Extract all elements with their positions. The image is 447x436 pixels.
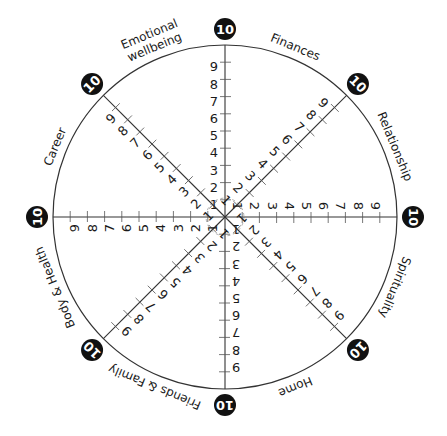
category-label-text: Body & Health [32, 245, 78, 330]
category-label-home: Home [276, 374, 314, 400]
tick-label: 2 [210, 180, 218, 195]
tick-label: 5 [136, 224, 151, 232]
tick-label: 8 [303, 107, 319, 123]
badge-label: 10 [346, 338, 369, 361]
tick-label: 5 [232, 291, 240, 306]
badge-10: 10 [342, 334, 373, 365]
badge-label: 10 [346, 72, 369, 95]
tick-label: 7 [143, 299, 159, 315]
tick-label: 7 [102, 224, 117, 232]
category-label-career: Career [41, 125, 69, 167]
category-label-relationship: Relationship [374, 110, 415, 183]
tick-label: 4 [232, 274, 240, 289]
category-label-text: Relationship [374, 110, 415, 183]
category-label-text: Finances [269, 31, 323, 64]
tick-label: 5 [151, 159, 167, 175]
tick-label: 9 [331, 307, 347, 323]
tick-label: 7 [127, 135, 143, 151]
tick-label: 7 [210, 94, 218, 109]
tick-label: 2 [232, 239, 240, 254]
badge-10: 10 [77, 69, 108, 100]
tick-label: 7 [307, 283, 323, 299]
tick-label: 3 [191, 250, 207, 266]
category-label-text: Career [41, 125, 69, 167]
tick-label: 1 [210, 197, 218, 212]
badge-10: 10 [214, 394, 236, 416]
tick-label: 3 [171, 224, 186, 232]
category-label-finances: Finances [269, 31, 323, 64]
tick-label: 8 [131, 311, 147, 327]
tick-label: 1 [230, 202, 245, 210]
badge-label: 10 [80, 338, 103, 361]
tick-label: 6 [316, 202, 331, 210]
tick-label: 6 [279, 131, 295, 147]
tick-label: 6 [155, 286, 171, 302]
tick-label: 5 [167, 274, 183, 290]
axes-group: 1234567891234567891234567891234567891234… [53, 45, 397, 389]
tick-label: 5 [266, 143, 282, 159]
tick-label: 3 [210, 163, 218, 178]
tick-label: 5 [282, 258, 298, 274]
tick-label: 9 [368, 202, 383, 210]
tick-label: 8 [210, 77, 218, 92]
tick-label: 7 [232, 325, 240, 340]
tick-label: 9 [118, 323, 134, 339]
tick-label: 6 [294, 271, 310, 287]
badge-label: 10 [216, 22, 234, 37]
tick-label: 7 [333, 202, 348, 210]
tick-label: 6 [232, 308, 240, 323]
tick-label: 2 [246, 222, 262, 238]
tick-label: 9 [315, 95, 331, 111]
tick-label: 9 [103, 110, 119, 126]
badge-label: 10 [80, 72, 103, 95]
tick-label: 2 [188, 224, 203, 232]
tick-label: 9 [232, 360, 240, 375]
badge-label: 10 [30, 208, 45, 226]
badge-10: 10 [402, 206, 424, 228]
category-label-text: Home [276, 374, 314, 400]
category-label-friends-family: Friends & Family [106, 362, 203, 413]
tick-label: 4 [163, 171, 179, 187]
tick-label: 8 [85, 224, 100, 232]
tick-label: 9 [210, 59, 218, 74]
tick-label: 1 [232, 222, 240, 237]
tick-label: 4 [153, 224, 168, 232]
wheel-of-life-diagram: 1234567891234567891234567891234567891234… [0, 0, 447, 436]
badge-10: 10 [214, 18, 236, 40]
badge-label: 10 [216, 398, 234, 413]
tick-label: 3 [242, 168, 258, 184]
tick-label: 7 [291, 119, 307, 135]
tick-label: 4 [254, 155, 270, 171]
tick-label: 8 [115, 123, 131, 139]
badge-10: 10 [77, 334, 108, 365]
tick-label: 6 [210, 111, 218, 126]
tick-label: 2 [188, 196, 204, 212]
badge-label: 10 [406, 208, 421, 226]
tick-label: 4 [179, 262, 195, 278]
tick-label: 6 [139, 147, 155, 163]
tick-label: 5 [299, 202, 314, 210]
category-label-body-health: Body & Health [32, 245, 78, 330]
category-label-text: Friends & Family [106, 362, 203, 413]
tick-label: 2 [204, 238, 220, 254]
badge-10: 10 [342, 69, 373, 100]
tick-label: 1 [205, 224, 220, 232]
tick-label: 5 [210, 128, 218, 143]
badge-10: 10 [26, 206, 48, 228]
tick-label: 2 [247, 202, 262, 210]
tick-label: 3 [176, 183, 192, 199]
tick-label: 8 [232, 343, 240, 358]
tick-label: 9 [67, 224, 82, 232]
tick-label: 4 [210, 145, 218, 160]
tick-label: 3 [232, 257, 240, 272]
tick-label: 4 [282, 202, 297, 210]
tick-label: 3 [265, 202, 280, 210]
tick-label: 8 [351, 202, 366, 210]
tick-label: 3 [258, 234, 274, 250]
category-label-emotional-wellbeing: Emotionalwellbeing [119, 16, 185, 65]
tick-label: 4 [270, 246, 286, 262]
tick-label: 2 [230, 180, 246, 196]
tick-label: 6 [119, 224, 134, 232]
tick-label: 8 [319, 295, 335, 311]
